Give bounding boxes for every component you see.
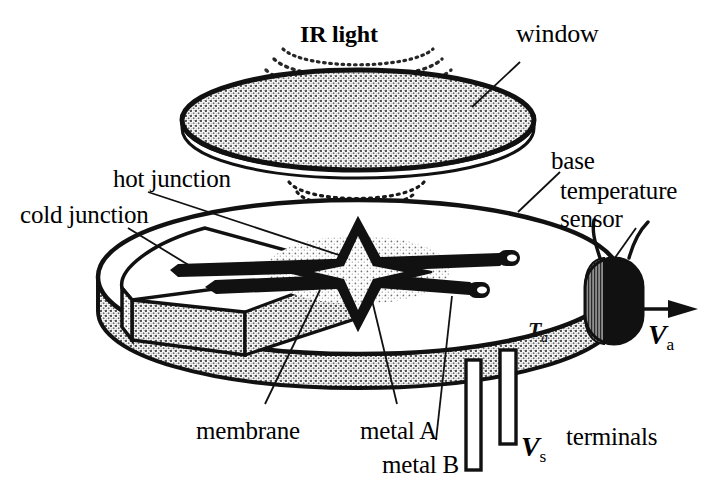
contact-pad-upper bbox=[498, 250, 520, 266]
label-base: base bbox=[551, 148, 595, 174]
label-membrane: membrane bbox=[196, 418, 300, 444]
label-cold-junction: cold junction bbox=[20, 202, 149, 228]
output-voltage-subscript: a bbox=[666, 335, 674, 354]
thermopile-sensor-diagram bbox=[0, 0, 717, 487]
ambient-temperature-symbol: T bbox=[528, 317, 541, 342]
ambient-temperature-subscript: a bbox=[541, 330, 548, 345]
output-arrow bbox=[641, 300, 698, 318]
label-ambient-temperature: Ta bbox=[528, 318, 548, 345]
label-temperature-sensor-line1: temperature bbox=[560, 178, 677, 204]
label-metal-a: metal A bbox=[360, 418, 437, 444]
label-ir-light: IR light bbox=[300, 22, 378, 47]
label-supply-voltage: Vs bbox=[521, 432, 546, 466]
temperature-sensor-body bbox=[585, 258, 643, 344]
output-voltage-symbol: V bbox=[648, 319, 666, 350]
label-temperature-sensor-line2: sensor bbox=[560, 206, 623, 232]
label-window: window bbox=[516, 20, 599, 47]
leader-base bbox=[518, 172, 560, 212]
label-output-voltage: Va bbox=[648, 320, 674, 354]
contact-pad-lower bbox=[468, 282, 490, 298]
terminal-pin-left bbox=[466, 360, 481, 470]
supply-voltage-symbol: V bbox=[521, 431, 539, 462]
label-terminals: terminals bbox=[566, 424, 657, 450]
terminal-pin-right bbox=[500, 350, 516, 444]
supply-voltage-subscript: s bbox=[539, 447, 546, 466]
window-disc bbox=[182, 70, 534, 178]
base-disc bbox=[98, 200, 620, 388]
label-metal-b: metal B bbox=[382, 452, 459, 478]
figure-canvas: IR light window base temperature sensor … bbox=[0, 0, 717, 487]
label-hot-junction: hot junction bbox=[113, 166, 231, 192]
